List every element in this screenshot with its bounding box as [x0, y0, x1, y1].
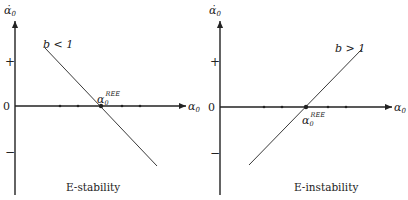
ree-point — [304, 105, 308, 109]
zero-label: 0 — [208, 101, 215, 114]
plus-label: + — [210, 55, 220, 69]
caption-e-instability: E-instability — [294, 181, 358, 193]
caption-e-stability: E-stability — [66, 181, 120, 193]
ree-label: α0REE — [97, 90, 120, 107]
zero-label: 0 — [3, 100, 10, 113]
panel-e-stability: α̇0 α0 + 0 − b < 1 α0REE E-stability — [3, 4, 200, 195]
ree-label: α0REE — [302, 111, 325, 128]
x-axis-label: α0 — [188, 100, 200, 114]
x-axis-label: α0 — [394, 101, 406, 115]
y-axis-label: α̇0 — [4, 4, 16, 18]
minus-label: − — [5, 145, 15, 159]
minus-label: − — [210, 146, 220, 160]
line-label: b < 1 — [43, 38, 73, 51]
line-label: b > 1 — [335, 42, 365, 55]
panel-e-instability: α̇0 α0 + 0 − b > 1 α0REE E-instability — [208, 4, 406, 195]
e-stability-diagram: α̇0 α0 + 0 − b < 1 α0REE E-stability α̇0… — [0, 0, 408, 200]
plus-label: + — [5, 55, 15, 69]
y-axis-label: α̇0 — [209, 4, 221, 18]
